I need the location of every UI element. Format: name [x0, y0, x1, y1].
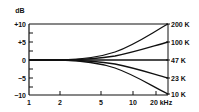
y-tick-labels: +10 +5 0 −5 −10: [14, 21, 26, 99]
curve-10k: [29, 60, 168, 94]
y-tick-label: +10: [14, 21, 26, 28]
y-tick-label: +5: [18, 39, 26, 46]
x-tick-label: 10: [129, 99, 137, 106]
y-tick-label: −5: [18, 75, 26, 82]
y-tick-label: −10: [14, 92, 26, 99]
x-tick-label: 5: [99, 99, 103, 106]
y-axis-unit-label: dB: [15, 7, 24, 14]
x-tick-labels: 1 2 5 10 20 kHz: [27, 99, 173, 106]
series-label-47k: 47 K: [171, 57, 186, 64]
series-label-23k: 23 K: [171, 75, 186, 82]
response-curves: [29, 24, 168, 94]
curve-200k: [29, 24, 168, 60]
x-tick-label: 20 kHz: [150, 99, 173, 106]
series-label-10k: 10 K: [171, 91, 186, 98]
series-labels: 200 K 100 K 47 K 23 K 10 K: [171, 21, 190, 98]
curve-100k: [29, 42, 168, 60]
curve-23k: [29, 60, 168, 78]
series-label-100k: 100 K: [171, 39, 190, 46]
series-label-200k: 200 K: [171, 21, 190, 28]
x-tick-label: 1: [27, 99, 31, 106]
x-tick-label: 2: [58, 99, 62, 106]
y-tick-label: 0: [22, 57, 26, 64]
frequency-response-chart: dB +10 +5 0 −5 −10 1 2 5 10 20 kHz: [0, 0, 199, 112]
